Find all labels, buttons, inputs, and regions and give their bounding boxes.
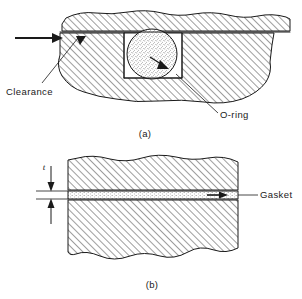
seal-diagram-svg: Clearance O-ring (a) xyxy=(0,0,302,299)
caption-a: (a) xyxy=(139,128,152,139)
oring-label: O-ring xyxy=(220,109,249,120)
clearance-label: Clearance xyxy=(6,86,53,97)
oring-circle xyxy=(127,29,177,79)
gasket-label: Gasket xyxy=(260,189,293,200)
figure-root: Clearance O-ring (a) xyxy=(0,0,302,299)
oring-body xyxy=(127,29,177,79)
caption-b: (b) xyxy=(146,279,159,290)
